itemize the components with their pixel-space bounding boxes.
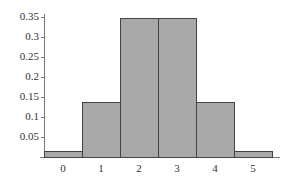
x-tick-label: 4 <box>196 162 234 174</box>
bar-1 <box>82 102 121 158</box>
y-tick-label: 0.35 <box>3 10 39 22</box>
y-tick-mark <box>41 97 45 98</box>
y-tick-mark <box>41 137 45 138</box>
x-tick-label: 0 <box>44 162 82 174</box>
y-tick-label: 0.1 <box>3 110 39 122</box>
y-tick-label: 0.15 <box>3 90 39 102</box>
x-tick-label: 2 <box>120 162 158 174</box>
bar-2 <box>120 18 159 158</box>
bar-0 <box>44 151 83 158</box>
x-tick-label: 3 <box>158 162 196 174</box>
bar-3 <box>158 18 197 158</box>
y-tick-label: 0.2 <box>3 70 39 82</box>
bar-4 <box>196 102 235 158</box>
y-tick-mark <box>41 37 45 38</box>
y-tick-mark <box>41 17 45 18</box>
y-tick-mark <box>41 117 45 118</box>
y-tick-label: 0.05 <box>3 130 39 142</box>
x-tick-label: 5 <box>234 162 272 174</box>
bar-5 <box>234 151 273 158</box>
y-tick-label: 0.25 <box>3 50 39 62</box>
y-tick-label: 0.3 <box>3 30 39 42</box>
y-tick-mark <box>41 77 45 78</box>
x-tick-label: 1 <box>82 162 120 174</box>
y-tick-mark <box>41 57 45 58</box>
